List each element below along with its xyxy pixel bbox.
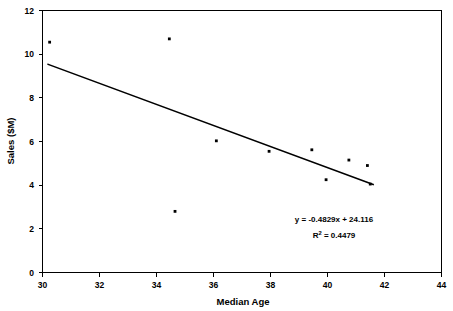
y-tick-label-10: 10 (25, 49, 35, 59)
chart-canvas: 0 2 4 6 8 10 12 30 32 34 36 38 40 42 (0, 0, 453, 311)
x-axis-title: Median Age (217, 296, 270, 307)
y-tick-label-6: 6 (29, 137, 34, 147)
data-point (325, 178, 328, 181)
data-point (369, 183, 372, 186)
x-axis-tick-labels: 30 32 34 36 38 40 42 44 (38, 280, 447, 290)
x-tick-label-42: 42 (380, 280, 390, 290)
x-tick-label-30: 30 (38, 280, 48, 290)
x-axis-ticks (43, 273, 442, 278)
data-point (310, 148, 313, 151)
data-point (174, 210, 177, 213)
data-point (268, 150, 271, 153)
x-tick-label-36: 36 (209, 280, 219, 290)
data-point (347, 159, 350, 162)
x-tick-label-34: 34 (152, 280, 162, 290)
x-tick-label-32: 32 (95, 280, 105, 290)
y-tick-label-0: 0 (29, 268, 34, 278)
trendline (48, 64, 373, 184)
y-tick-label-4: 4 (29, 180, 34, 190)
scatter-chart: 0 2 4 6 8 10 12 30 32 34 36 38 40 42 (0, 0, 453, 311)
data-point (48, 41, 51, 44)
r-squared-label: R2 = 0.4479 (313, 230, 356, 241)
x-tick-label-40: 40 (323, 280, 333, 290)
y-tick-label-12: 12 (25, 6, 35, 16)
data-point (366, 164, 369, 167)
y-tick-label-8: 8 (29, 93, 34, 103)
regression-equation-label: y = -0.4829x + 24.116 (295, 215, 374, 224)
y-axis-title: Sales ($M) (5, 118, 16, 165)
data-point (215, 139, 218, 142)
r-squared-value: = 0.4479 (322, 231, 356, 240)
y-axis-tick-labels: 0 2 4 6 8 10 12 (25, 6, 35, 278)
data-points-group (48, 37, 371, 212)
x-tick-label-38: 38 (266, 280, 276, 290)
y-tick-label-2: 2 (29, 224, 34, 234)
x-tick-label-44: 44 (437, 280, 447, 290)
plot-frame (43, 11, 442, 273)
data-point (168, 37, 171, 40)
